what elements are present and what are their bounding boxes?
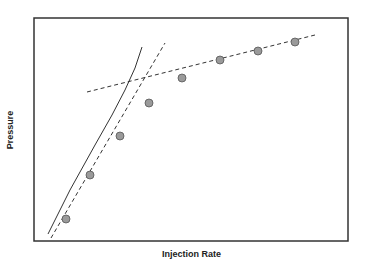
steep-trend-line	[51, 43, 165, 238]
data-point	[116, 132, 124, 140]
data-point	[291, 38, 299, 46]
shallow-trend-line	[87, 35, 315, 92]
chart-canvas	[0, 0, 367, 269]
data-points	[62, 38, 299, 223]
data-point	[254, 47, 262, 55]
data-point	[86, 171, 94, 179]
x-axis-label: Injection Rate	[0, 249, 367, 259]
curve-line	[48, 47, 142, 234]
data-point	[178, 74, 186, 82]
data-point	[216, 56, 224, 64]
data-point	[62, 215, 70, 223]
data-point	[145, 99, 153, 107]
plot-frame	[34, 18, 348, 241]
trend-lines	[48, 35, 315, 238]
y-axis-label: Pressure	[5, 111, 15, 150]
